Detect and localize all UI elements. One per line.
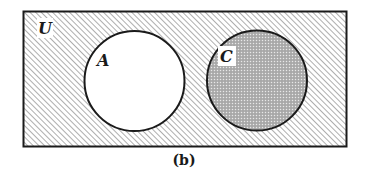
- set-c-label: C: [220, 47, 233, 66]
- set-a-circle: [85, 31, 185, 131]
- universe-label: U: [38, 19, 53, 38]
- set-c-circle: [207, 31, 307, 131]
- set-a-label: A: [95, 51, 109, 70]
- figure-caption: (b): [0, 152, 368, 168]
- venn-diagram: U A C: [0, 0, 368, 176]
